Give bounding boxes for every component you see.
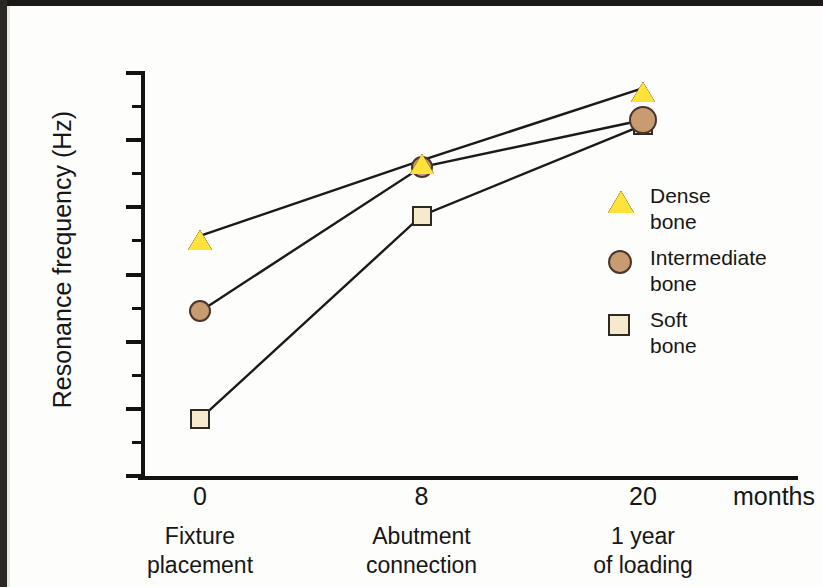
chart-figure: Resonance frequency (Hz) 820080007800760…	[0, 0, 823, 587]
triangle-icon	[608, 191, 634, 213]
x-axis-tick-description-line: connection	[322, 551, 522, 580]
x-axis-tick-group: 0Fixtureplacement	[100, 482, 300, 580]
y-axis-major-tick	[126, 71, 142, 75]
x-axis-tick-description-line: placement	[100, 551, 300, 580]
data-point-circle	[189, 300, 211, 322]
legend-label-line: bone	[650, 209, 711, 235]
page-border-top	[0, 0, 823, 6]
x-axis-tick-labels: 0Fixtureplacement8Abutmentconnection201 …	[141, 482, 698, 582]
legend-item-square: Softbone	[608, 310, 823, 372]
legend-item-triangle: Densebone	[608, 186, 823, 248]
y-axis-major-tick	[126, 205, 142, 209]
x-axis-tick-value: 0	[100, 482, 300, 511]
x-axis-tick-description-line: Fixture	[100, 522, 300, 551]
x-axis-tick-description: Abutmentconnection	[322, 522, 522, 580]
y-axis-major-tick	[126, 273, 142, 277]
legend-label-line: Soft	[650, 307, 697, 333]
y-axis-major-tick	[126, 407, 142, 411]
legend-label-line: Dense	[650, 183, 711, 209]
x-axis-tick-description-line: of loading	[543, 551, 743, 580]
x-axis-tick-value: 8	[322, 482, 522, 511]
legend-item-circle: Intermediatebone	[608, 248, 823, 310]
legend-label-line: Intermediate	[650, 245, 767, 271]
y-axis-major-tick	[126, 138, 142, 142]
legend-swatch-square-icon	[608, 312, 636, 338]
legend-swatch-triangle-icon	[608, 188, 636, 214]
y-axis-major-tick	[126, 340, 142, 344]
data-point-triangle	[188, 230, 212, 250]
x-axis-tick-description-line: Abutment	[322, 522, 522, 551]
y-axis-major-tick	[126, 474, 142, 478]
legend-label: Softbone	[650, 307, 697, 359]
data-point-circle	[629, 106, 657, 134]
x-axis-tick-description: Fixtureplacement	[100, 522, 300, 580]
legend-label-line: bone	[650, 271, 767, 297]
x-axis-tick-description: 1 yearof loading	[543, 522, 743, 580]
data-point-square	[412, 206, 432, 226]
x-axis-tick-group: 8Abutmentconnection	[322, 482, 522, 580]
x-axis-tick-description-line: 1 year	[543, 522, 743, 551]
page-border-left	[0, 0, 7, 587]
x-axis-tick-value: 20	[543, 482, 743, 511]
data-point-triangle	[631, 82, 655, 102]
circle-icon	[608, 250, 632, 274]
legend-swatch-circle-icon	[608, 250, 636, 276]
chart-legend: DenseboneIntermediateboneSoftbone	[608, 186, 823, 372]
x-axis-line	[138, 476, 798, 480]
data-point-square	[190, 409, 210, 429]
square-icon	[608, 314, 630, 336]
x-axis-unit-label: months	[733, 482, 815, 511]
legend-label: Densebone	[650, 183, 711, 235]
legend-label: Intermediatebone	[650, 245, 767, 297]
y-axis-title: Resonance frequency (Hz)	[48, 80, 77, 440]
data-point-triangle	[410, 154, 434, 174]
page-border-left-inner	[7, 6, 10, 587]
legend-label-line: bone	[650, 333, 697, 359]
x-axis-tick-group: 201 yearof loading	[543, 482, 743, 580]
